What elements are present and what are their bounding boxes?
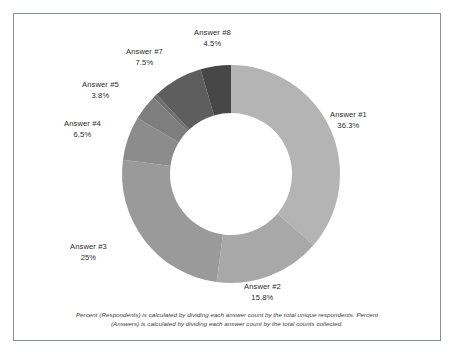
slice-label-answer8-pct: 4.5%: [194, 39, 231, 50]
slice-label-answer1-name: Answer #1: [330, 110, 367, 121]
slice-label-answer2: Answer #2 15.8%: [244, 282, 281, 303]
slice-label-answer3: Answer #3 25%: [70, 242, 107, 263]
chart-frame: Answer #1 36.3% Answer #2 15.8% Answer #…: [13, 13, 441, 341]
slice-label-answer4-name: Answer #4: [64, 119, 101, 130]
slice-label-answer8: Answer #8 4.5%: [194, 28, 231, 49]
donut-chart-svg: [14, 14, 442, 342]
slice-label-answer4: Answer #4 6.5%: [64, 119, 101, 140]
slice-label-answer2-name: Answer #2: [244, 282, 281, 293]
slice-label-answer7-name: Answer #7: [126, 47, 163, 58]
chart-footnote-line-1: Percent (Respondents) is calculated by d…: [36, 310, 418, 320]
chart-footnote: Percent (Respondents) is calculated by d…: [36, 310, 418, 329]
slice-label-answer3-pct: 25%: [70, 253, 107, 264]
donut-slice-answer-1[interactable]: [231, 65, 340, 245]
slice-label-answer5-name: Answer #5: [82, 80, 119, 91]
chart-footnote-line-2: (Answers) is calculated by dividing each…: [36, 319, 418, 329]
slice-label-answer1: Answer #1 36.3%: [330, 110, 367, 131]
slice-label-answer5: Answer #5 3.8%: [82, 80, 119, 101]
slice-label-answer7-pct: 7.5%: [126, 58, 163, 69]
slice-label-answer1-pct: 36.3%: [330, 121, 367, 132]
slice-label-answer7: Answer #7 7.5%: [126, 47, 163, 68]
donut-chart: Answer #1 36.3% Answer #2 15.8% Answer #…: [14, 14, 440, 340]
slice-label-answer3-name: Answer #3: [70, 242, 107, 253]
slice-label-answer5-pct: 3.8%: [82, 91, 119, 102]
donut-slice-answer-3[interactable]: [122, 160, 223, 282]
slice-label-answer2-pct: 15.8%: [244, 293, 281, 304]
slice-label-answer8-name: Answer #8: [194, 28, 231, 39]
slice-label-answer4-pct: 6.5%: [64, 130, 101, 141]
